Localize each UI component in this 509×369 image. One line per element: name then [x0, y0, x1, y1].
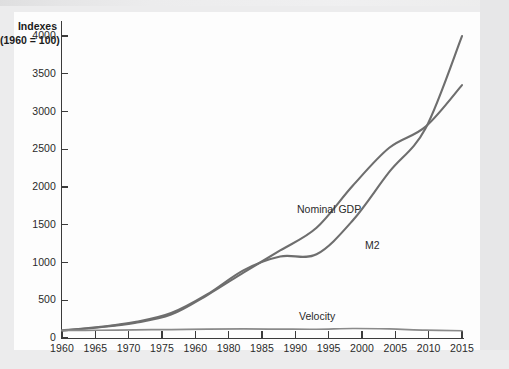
series-line-m2	[62, 36, 462, 330]
chart-plot-area	[0, 0, 509, 369]
series-label-m2: M2	[365, 239, 380, 251]
series-label-velocity: Velocity	[299, 310, 335, 322]
series-line-velocity	[62, 328, 462, 330]
series-line-nominal-gdp	[62, 85, 462, 330]
series-label-nominal-gdp: Nominal GDP	[297, 203, 361, 215]
chart-page: Indexes (1960 = 100) 0500100015002000250…	[0, 0, 509, 369]
